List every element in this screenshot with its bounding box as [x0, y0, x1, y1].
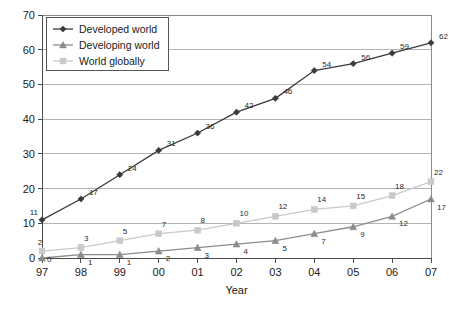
x-axis-tick-label: 03: [269, 266, 281, 278]
legend-label: Developing world: [79, 39, 160, 51]
data-point-marker: [428, 40, 434, 46]
data-point-label: 18: [395, 182, 404, 191]
data-point-marker: [195, 227, 201, 233]
data-point-label: 56: [361, 53, 370, 62]
data-point-marker: [234, 220, 240, 226]
data-point-label: 1: [88, 258, 93, 267]
data-point-marker: [156, 231, 162, 237]
y-axis-tick-label: 50: [23, 78, 35, 90]
data-point-marker: [389, 50, 395, 56]
x-axis-tick-label: 01: [191, 266, 203, 278]
x-axis-tick-label: 05: [347, 266, 359, 278]
data-point-marker: [428, 179, 434, 185]
series-world-globally: 23578101214151822: [38, 168, 444, 254]
data-point-marker: [117, 172, 123, 178]
x-axis-tick-label: 98: [75, 266, 87, 278]
data-point-label: 5: [282, 244, 287, 253]
data-point-label: 17: [89, 188, 98, 197]
x-axis-tick-label: 99: [114, 266, 126, 278]
line-chart: 0102030405060709798990001020304050607Yea…: [0, 0, 449, 313]
x-axis-tick-label: 97: [36, 266, 48, 278]
data-point-label: 3: [84, 234, 89, 243]
x-axis-tick-label: 04: [308, 266, 320, 278]
legend: Developed worldDeveloping worldWorld glo…: [46, 17, 168, 70]
y-axis-tick-label: 70: [23, 9, 35, 21]
data-point-marker: [389, 213, 396, 219]
data-point-marker: [350, 203, 356, 209]
data-point-label: 42: [245, 101, 254, 110]
legend-label: World globally: [79, 55, 146, 67]
y-axis-tick-label: 0: [29, 252, 35, 264]
data-point-marker: [273, 213, 279, 219]
data-point-label: 10: [240, 209, 249, 218]
data-point-label: 11: [30, 208, 39, 217]
data-point-label: 0: [47, 255, 52, 264]
data-point-label: 15: [356, 192, 365, 201]
data-point-marker: [195, 130, 201, 136]
series-developing-world: 0112345791217: [39, 196, 447, 267]
legend-marker: [60, 58, 66, 64]
data-point-marker: [233, 109, 239, 115]
data-point-marker: [39, 217, 45, 223]
legend-label: Developed world: [79, 23, 157, 35]
data-point-label: 12: [399, 219, 408, 228]
x-axis-tick-label: 02: [230, 266, 242, 278]
data-point-label: 12: [278, 202, 287, 211]
data-point-label: 62: [439, 32, 448, 41]
x-axis-tick-label: 06: [386, 266, 398, 278]
series-line: [42, 199, 431, 258]
y-axis-tick-label: 40: [23, 113, 35, 125]
data-point-marker: [389, 193, 395, 199]
data-point-label: 2: [166, 254, 171, 263]
data-point-label: 31: [167, 139, 176, 148]
x-axis-tick-label: 00: [153, 266, 165, 278]
data-point-marker: [39, 248, 45, 254]
data-point-marker: [117, 238, 123, 244]
data-point-label: 2: [38, 238, 43, 247]
data-point-label: 59: [400, 42, 409, 51]
data-point-label: 36: [206, 122, 215, 131]
y-axis-tick-label: 60: [23, 44, 35, 56]
data-point-label: 22: [434, 168, 443, 177]
y-axis-tick-label: 20: [23, 183, 35, 195]
chart-canvas: 0102030405060709798990001020304050607Yea…: [0, 0, 449, 313]
x-axis-title: Year: [225, 284, 248, 296]
data-point-label: 14: [317, 195, 326, 204]
data-point-label: 8: [201, 216, 206, 225]
x-axis-tick-label: 07: [425, 266, 437, 278]
data-point-marker: [311, 207, 317, 213]
data-point-marker: [350, 61, 356, 67]
data-point-label: 4: [244, 247, 249, 256]
data-point-marker: [78, 245, 84, 251]
data-point-marker: [78, 196, 84, 202]
data-point-label: 3: [205, 251, 210, 260]
y-axis-tick-label: 10: [23, 217, 35, 229]
data-point-label: 24: [128, 164, 137, 173]
data-point-label: 54: [322, 60, 331, 69]
data-point-label: 17: [437, 203, 446, 212]
y-axis-tick-label: 30: [23, 148, 35, 160]
data-point-marker: [428, 196, 435, 202]
data-point-marker: [156, 147, 162, 153]
data-point-label: 46: [283, 87, 292, 96]
data-point-label: 7: [162, 220, 167, 229]
data-point-label: 5: [123, 227, 128, 236]
data-point-label: 9: [360, 230, 365, 239]
data-point-label: 1: [127, 258, 132, 267]
data-point-label: 7: [321, 237, 326, 246]
x-axis-group: 9798990001020304050607: [36, 258, 437, 278]
